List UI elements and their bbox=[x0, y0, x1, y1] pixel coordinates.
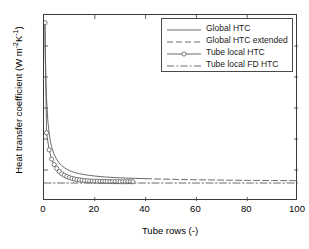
series-marker bbox=[44, 21, 47, 25]
x-axis-label: Tube rows (-) bbox=[43, 225, 297, 236]
series-line bbox=[146, 179, 298, 181]
legend-label: Tube local FD HTC bbox=[202, 58, 278, 70]
legend-swatch bbox=[166, 34, 202, 46]
series-marker bbox=[47, 148, 51, 152]
chart-legend: Global HTCGlobal HTC extendedTube local … bbox=[161, 18, 293, 72]
legend-item: Global HTC extended bbox=[166, 34, 288, 46]
x-tick-label: 40 bbox=[125, 204, 165, 214]
x-tick-label: 0 bbox=[23, 204, 63, 214]
legend-swatch bbox=[166, 22, 202, 34]
x-tick-label: 20 bbox=[74, 204, 114, 214]
x-tick-label: 80 bbox=[226, 204, 266, 214]
series-marker bbox=[44, 131, 48, 135]
series-line bbox=[45, 23, 146, 179]
legend-swatch bbox=[166, 58, 202, 70]
legend-item: Tube local HTC bbox=[166, 46, 288, 58]
legend-label: Global HTC bbox=[202, 22, 250, 34]
legend-item: Global HTC bbox=[166, 22, 288, 34]
legend-item: Tube local FD HTC bbox=[166, 58, 288, 70]
series-marker bbox=[52, 162, 56, 166]
x-tick-label: 60 bbox=[175, 204, 215, 214]
chart-figure: Heat transfer coefficient (W m-2K-1) 204… bbox=[0, 0, 309, 249]
x-tick-label: 100 bbox=[277, 204, 309, 214]
series-line bbox=[45, 23, 133, 182]
legend-label: Global HTC extended bbox=[202, 34, 288, 46]
series-marker bbox=[50, 157, 54, 161]
legend-swatch bbox=[166, 46, 202, 58]
y-axis-label: Heat transfer coefficient (W m-2K-1) bbox=[12, 0, 24, 200]
legend-label: Tube local HTC bbox=[202, 46, 265, 58]
